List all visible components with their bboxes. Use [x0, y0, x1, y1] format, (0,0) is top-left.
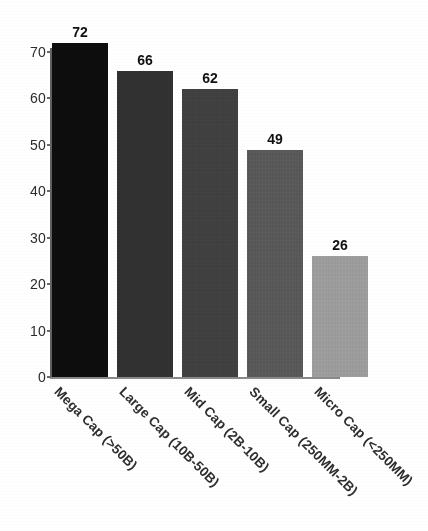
bar-group: 62 — [182, 89, 238, 377]
bar-group: 49 — [247, 150, 303, 378]
bar — [312, 256, 368, 377]
y-axis-tick-30: 30 — [0, 231, 46, 245]
y-axis-tick-mark — [47, 97, 51, 99]
bar — [182, 89, 238, 377]
y-axis-tick-40: 40 — [0, 184, 46, 198]
bar-group: 66 — [117, 71, 173, 377]
bar — [247, 150, 303, 378]
y-axis-tick-20: 20 — [0, 277, 46, 291]
x-axis-label-3: Small Cap (250MM-2B) — [246, 384, 360, 498]
y-axis-tick-mark — [47, 190, 51, 192]
y-axis-tick-60: 60 — [0, 91, 46, 105]
y-axis-tick-mark — [47, 283, 51, 285]
y-axis-tick-mark — [47, 51, 51, 53]
y-axis-tick-50: 50 — [0, 138, 46, 152]
bar — [117, 71, 173, 377]
bar-value-label: 26 — [312, 238, 368, 252]
bar-group: 26 — [312, 256, 368, 377]
y-axis-tick-mark — [47, 237, 51, 239]
bar-value-label: 49 — [247, 132, 303, 146]
x-axis-spine — [50, 377, 340, 379]
bar-chart: 010203040506070 7266624926 Mega Cap (>50… — [0, 0, 428, 531]
y-axis-tick-70: 70 — [0, 45, 46, 59]
y-axis-tick-0: 0 — [0, 370, 46, 384]
bar — [52, 43, 108, 377]
y-axis-tick-mark — [47, 330, 51, 332]
bar-value-label: 72 — [52, 25, 108, 39]
y-axis-tick-mark — [47, 376, 51, 378]
bar-value-label: 66 — [117, 53, 173, 67]
bar-group: 72 — [52, 43, 108, 377]
y-axis-tick-mark — [47, 144, 51, 146]
y-axis-tick-10: 10 — [0, 324, 46, 338]
bar-value-label: 62 — [182, 71, 238, 85]
